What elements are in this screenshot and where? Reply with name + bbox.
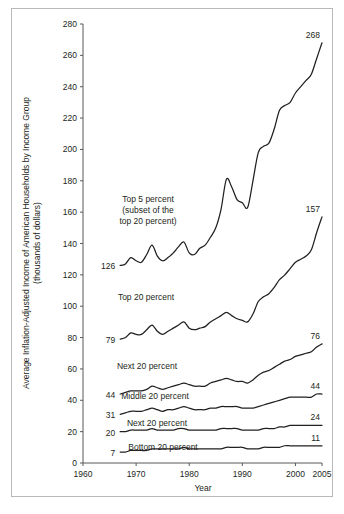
series-start-value: 31 [106, 410, 116, 420]
series-name-label: Next 20 percent [117, 361, 178, 371]
top5-annotation-line: top 20 percent) [119, 216, 176, 226]
y-tick-label: 40 [68, 395, 78, 405]
y-tick-label: 160 [63, 207, 77, 217]
y-tick-label: 260 [63, 50, 77, 60]
y-axis-tick-labels: 020406080100120140160180200220240260280 [63, 19, 77, 468]
series-start-value: 20 [106, 428, 116, 438]
series-end-value: 11 [311, 433, 320, 443]
x-tick-label: 1970 [127, 469, 146, 479]
series-start-value: 79 [106, 335, 116, 345]
series-start-value: 44 [106, 390, 116, 400]
axis-lines [83, 24, 322, 463]
series-end-value: 76 [311, 331, 321, 341]
x-tick-label: 1960 [74, 469, 93, 479]
series-line [120, 217, 322, 339]
y-tick-label: 60 [68, 364, 78, 374]
y-tick-label: 200 [63, 144, 77, 154]
series-line [120, 43, 322, 266]
series-start-value: 126 [101, 261, 115, 271]
series-name-label: Next 20 percent [127, 418, 188, 428]
series-name-label: Bottom 20 percent [128, 442, 198, 452]
figure-container: 020406080100120140160180200220240260280 … [0, 0, 344, 514]
y-tick-label: 180 [63, 176, 77, 186]
y-tick-label: 100 [63, 301, 77, 311]
y-tick-label: 120 [63, 270, 77, 280]
y-tick-label: 80 [68, 333, 78, 343]
y-axis-title-line1: Average Inflation-Adjusted Income of Ame… [21, 97, 31, 389]
y-tick-label: 140 [63, 239, 77, 249]
series-name-label: Top 20 percent [118, 292, 175, 302]
x-axis-tick-labels: 196019701980199020002005 [74, 469, 332, 479]
x-tick-label: 1980 [180, 469, 199, 479]
top5-annotation-line: Top 5 percent [122, 194, 174, 204]
y-axis-title: Average Inflation-Adjusted Income of Ame… [21, 97, 42, 389]
top5-annotation-line: (subset of the [122, 205, 174, 215]
series-end-value: 44 [311, 381, 321, 391]
line-chart: 020406080100120140160180200220240260280 … [0, 0, 344, 514]
y-tick-label: 0 [72, 458, 77, 468]
x-tick-label: 2000 [286, 469, 305, 479]
x-tick-label: 1990 [233, 469, 252, 479]
y-tick-label: 20 [68, 427, 78, 437]
series-end-value: 157 [306, 204, 320, 214]
series-start-value: 7 [110, 448, 115, 458]
x-axis-title: Year [194, 483, 211, 493]
series-annotations: 12626879157447631442024711Top 20 percent… [101, 30, 320, 458]
series-name-label: Middle 20 percent [121, 391, 189, 401]
y-tick-label: 240 [63, 82, 77, 92]
y-tick-label: 220 [63, 113, 77, 123]
series-end-value: 24 [311, 412, 321, 422]
series-end-value: 268 [306, 30, 320, 40]
y-tick-label: 280 [63, 19, 77, 29]
y-axis-title-line2: (thousands of dollars) [32, 202, 42, 284]
x-tick-label: 2005 [313, 469, 332, 479]
axes-group [80, 24, 322, 466]
